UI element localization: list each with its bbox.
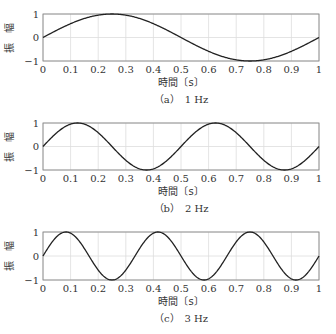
- panel-caption: （c） 3 Hz: [154, 313, 208, 324]
- figure: 00.10.20.30.40.50.60.70.80.91 −101 振 幅 時…: [0, 0, 336, 334]
- y-tick-label: −1: [24, 165, 39, 176]
- x-tick-labels: 00.10.20.30.40.50.60.70.80.91: [40, 283, 322, 294]
- x-axis-label: 時間〔s〕: [158, 77, 203, 88]
- x-tick-label: 0.5: [173, 173, 189, 184]
- y-tick-label: 0: [33, 251, 39, 262]
- x-tick-label: 0.7: [228, 64, 244, 75]
- x-tick-label: 0.1: [63, 283, 79, 294]
- y-tick-label: 1: [33, 9, 39, 20]
- y-axis-label: 振 幅: [3, 241, 15, 271]
- x-tick-label: 0.4: [145, 283, 161, 294]
- panel-a-1hz: 00.10.20.30.40.50.60.70.80.91 −101 振 幅 時…: [3, 9, 322, 106]
- y-tick-label: 0: [33, 141, 39, 152]
- x-tick-label: 0.5: [173, 283, 189, 294]
- x-axis-label: 時間〔s〕: [158, 186, 203, 197]
- x-tick-label: 0.5: [173, 64, 189, 75]
- x-tick-label: 0.3: [118, 64, 134, 75]
- x-tick-label: 1: [316, 64, 322, 75]
- y-tick-labels: −101: [24, 9, 39, 67]
- x-tick-label: 0.8: [256, 173, 272, 184]
- x-tick-label: 0.9: [283, 64, 299, 75]
- x-axis-label: 時間〔s〕: [158, 296, 203, 307]
- x-tick-labels: 00.10.20.30.40.50.60.70.80.91: [40, 64, 322, 75]
- x-tick-label: 0.6: [201, 64, 217, 75]
- x-tick-label: 0.7: [228, 173, 244, 184]
- x-tick-label: 0: [40, 283, 46, 294]
- panel-c-3hz: 00.10.20.30.40.50.60.70.80.91 −101 振 幅 時…: [3, 227, 322, 325]
- y-tick-label: −1: [24, 56, 39, 67]
- x-tick-label: 0.2: [90, 64, 106, 75]
- y-axis-label: 振 幅: [3, 132, 15, 162]
- x-tick-label: 0.1: [63, 173, 79, 184]
- x-tick-label: 0.4: [145, 64, 161, 75]
- x-tick-label: 0.3: [118, 283, 134, 294]
- x-tick-label: 0.9: [283, 173, 299, 184]
- x-tick-label: 0.6: [201, 173, 217, 184]
- x-tick-label: 1: [316, 283, 322, 294]
- y-tick-labels: −101: [24, 118, 39, 176]
- x-tick-label: 0.6: [201, 283, 217, 294]
- panel-caption: （a） 1 Hz: [154, 94, 209, 105]
- x-tick-label: 0.2: [90, 173, 106, 184]
- x-tick-label: 0.2: [90, 283, 106, 294]
- y-tick-label: 1: [33, 227, 39, 238]
- y-tick-labels: −101: [24, 227, 39, 286]
- x-tick-label: 0.8: [256, 64, 272, 75]
- x-tick-label: 0.7: [228, 283, 244, 294]
- x-tick-label: 0.8: [256, 283, 272, 294]
- y-tick-label: 1: [33, 118, 39, 129]
- x-tick-label: 0.1: [63, 64, 79, 75]
- x-tick-label: 0.3: [118, 173, 134, 184]
- x-tick-label: 0: [40, 173, 46, 184]
- y-axis-label: 振 幅: [3, 23, 15, 53]
- x-tick-labels: 00.10.20.30.40.50.60.70.80.91: [40, 173, 322, 184]
- x-tick-label: 0.9: [283, 283, 299, 294]
- panel-caption: （b） 2 Hz: [154, 203, 209, 214]
- x-tick-label: 1: [316, 173, 322, 184]
- x-tick-label: 0.4: [145, 173, 161, 184]
- panel-b-2hz: 00.10.20.30.40.50.60.70.80.91 −101 振 幅 時…: [3, 118, 322, 215]
- x-tick-label: 0: [40, 64, 46, 75]
- y-tick-label: −1: [24, 275, 39, 286]
- y-tick-label: 0: [33, 32, 39, 43]
